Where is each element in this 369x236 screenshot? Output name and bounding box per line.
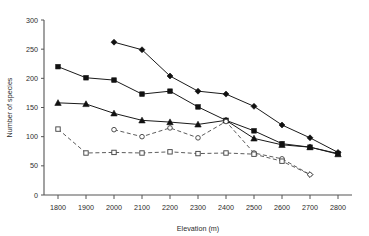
x-tick-label: 1800 [50,203,66,212]
y-tick-label: 300 [26,16,38,25]
x-tick-label: 2800 [330,203,346,212]
species-elevation-chart: 0501001502002503001800190020002100220023… [0,0,369,236]
series-line-series-open-circle [114,122,310,175]
data-point-series-filled-diamond [223,91,229,97]
x-tick-label: 2300 [190,203,206,212]
series-line-series-filled-triangle [58,103,338,154]
data-point-series-open-square [196,151,200,155]
data-point-series-filled-triangle [251,135,257,141]
data-point-series-open-circle [168,126,173,131]
data-point-series-filled-diamond [251,103,257,109]
y-tick-label: 250 [26,45,38,54]
y-tick-label: 200 [26,74,38,83]
x-tick-label: 1900 [78,203,94,212]
y-tick-label: 50 [30,161,38,170]
data-point-series-open-circle [224,119,229,124]
data-point-series-filled-square [168,89,173,94]
series-line-series-open-square [58,129,310,175]
y-tick-label: 0 [34,191,38,200]
data-point-series-filled-square [252,129,257,134]
data-point-series-filled-diamond [195,88,201,94]
data-point-series-open-square [307,172,313,178]
x-tick-label: 2200 [162,203,178,212]
chart-canvas: 0501001502002503001800190020002100220023… [0,0,369,236]
y-axis-title: Number of species [5,77,14,137]
data-point-series-filled-square [196,105,201,110]
data-point-series-open-square [56,127,60,131]
data-point-series-open-square [140,151,144,155]
data-point-series-filled-square [56,64,61,69]
data-point-series-filled-diamond [307,135,313,141]
data-point-series-open-square [168,150,172,154]
data-point-series-open-circle [196,136,201,141]
y-tick-label: 100 [26,132,38,141]
data-point-series-open-circle [112,127,117,132]
y-tick-label: 150 [26,103,38,112]
data-point-series-open-square [252,152,256,156]
data-point-series-filled-diamond [111,39,117,45]
data-point-series-filled-square [84,75,89,80]
x-axis-title: Elevation (m) [177,224,219,233]
data-point-series-filled-diamond [279,122,285,128]
data-point-series-filled-square [140,92,145,97]
data-point-series-open-square [280,159,284,163]
x-tick-label: 2700 [302,203,318,212]
data-point-series-open-square [112,150,116,154]
data-point-series-open-square [224,151,228,155]
data-point-series-open-circle [140,134,145,139]
x-tick-label: 2000 [106,203,122,212]
x-tick-label: 2500 [246,203,262,212]
data-point-series-open-square [84,151,88,155]
x-tick-label: 2100 [134,203,150,212]
data-point-series-filled-square [112,78,117,83]
x-tick-label: 2600 [274,203,290,212]
x-tick-label: 2400 [218,203,234,212]
